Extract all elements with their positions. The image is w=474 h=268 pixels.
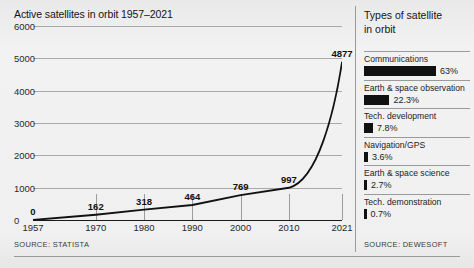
legend-title: Types of satellite in orbit	[364, 8, 472, 36]
vertical-divider	[355, 6, 356, 252]
line-chart-panel: Active satellites in orbit 1957–2021 600…	[0, 0, 352, 268]
legend-item-percentage: 7.8%	[377, 123, 398, 133]
y-axis-tick-label: 1000	[14, 182, 35, 193]
legend-item-bar	[364, 152, 368, 162]
y-axis-tick-label: 5000	[14, 53, 35, 64]
y-axis-tick-label: 2000	[14, 150, 35, 161]
legend-source: SOURCE: DEWESOFT	[364, 240, 448, 249]
data-point-label: 0	[30, 206, 35, 217]
data-point-label: 997	[281, 174, 297, 185]
x-axis-label-row: 1957197019801990200020102021	[33, 222, 342, 236]
legend-item: Tech. development7.8%	[364, 108, 470, 137]
data-point-label: 769	[233, 181, 249, 192]
legend-item-label: Communications	[364, 54, 470, 65]
y-axis-tick-label: 6000	[14, 21, 35, 32]
y-axis-tick-label: 0	[14, 215, 19, 226]
legend-item-bar-row: 0.7%	[364, 208, 470, 219]
chart-title: Active satellites in orbit 1957–2021	[14, 8, 173, 20]
legend-item-bar	[364, 180, 367, 190]
legend-title-line2: in orbit	[364, 22, 472, 36]
legend-item-label: Tech. development	[364, 111, 470, 122]
infographic-page: Active satellites in orbit 1957–2021 600…	[0, 0, 474, 268]
data-point-labels: 01623184647699974877	[33, 26, 342, 220]
x-axis-tick-label: 1990	[182, 222, 203, 233]
data-point-label: 464	[184, 191, 200, 202]
legend-item-bar	[364, 66, 436, 76]
y-axis-tick-label: 3000	[14, 118, 35, 129]
legend-item-bar	[364, 209, 367, 219]
legend-item-label: Earth & space science	[364, 168, 470, 179]
legend-item-bar-row: 3.6%	[364, 151, 470, 162]
x-axis-tick-label: 1957	[22, 222, 43, 233]
legend-item-percentage: 63%	[440, 66, 458, 76]
data-point-label: 162	[88, 201, 104, 212]
x-axis-tick-label: 1970	[85, 222, 106, 233]
y-axis-tick-label: 4000	[14, 85, 35, 96]
legend-item: Communications63%	[364, 51, 470, 80]
legend-item-label: Navigation/GPS	[364, 140, 470, 151]
satellite-type-list: Communications63%Earth & space observati…	[364, 51, 470, 222]
legend-item: Earth & space observation22.3%	[364, 80, 470, 109]
chart-source: SOURCE: STATISTA	[14, 240, 89, 249]
legend-item-label: Tech. demonstration	[364, 197, 470, 208]
satellite-types-panel: Types of satellite in orbit Communicatio…	[364, 0, 474, 268]
legend-item-bar	[364, 95, 389, 105]
x-axis-tick-label: 2000	[230, 222, 251, 233]
legend-item-percentage: 22.3%	[393, 95, 419, 105]
x-axis-tick-label: 2010	[278, 222, 299, 233]
legend-item-bar-row: 2.7%	[364, 180, 470, 191]
chart-plot-area: 6000500040003000200010000 01623184647699…	[14, 26, 342, 220]
legend-item-bar-row: 22.3%	[364, 94, 470, 105]
x-axis-tick	[342, 194, 343, 220]
legend-item: Navigation/GPS3.6%	[364, 137, 470, 166]
data-point-label: 318	[136, 196, 152, 207]
legend-item-bar-row: 63%	[364, 66, 470, 77]
legend-title-line1: Types of satellite	[364, 8, 472, 22]
legend-item-label: Earth & space observation	[364, 83, 470, 94]
x-axis-tick-label: 2021	[331, 222, 352, 233]
legend-item-percentage: 2.7%	[371, 180, 392, 190]
legend-item: Earth & space science2.7%	[364, 165, 470, 194]
legend-item-bar	[364, 123, 373, 133]
x-axis-tick-label: 1980	[133, 222, 154, 233]
legend-item-percentage: 3.6%	[372, 152, 393, 162]
legend-item: Tech. demonstration0.7%	[364, 194, 470, 223]
legend-item-bar-row: 7.8%	[364, 123, 470, 134]
data-point-label: 4877	[331, 48, 352, 59]
legend-item-percentage: 0.7%	[371, 209, 392, 219]
